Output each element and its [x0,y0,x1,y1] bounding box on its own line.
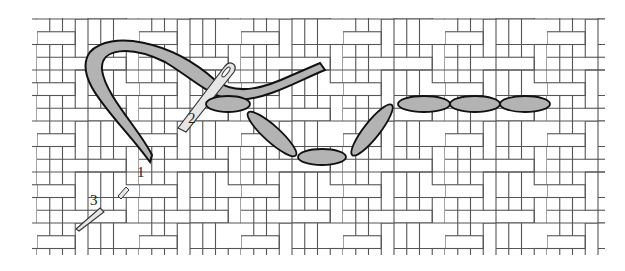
embroidery-diagram: 1 2 3 [0,0,625,271]
woven-fabric-grid [32,18,605,255]
stitch [298,149,346,165]
label-step-1: 1 [137,164,145,180]
stitch [450,96,500,112]
label-step-3: 3 [90,192,98,208]
stitch [206,96,250,112]
label-step-2: 2 [188,110,196,126]
stitch [500,96,550,112]
stitch [398,96,450,112]
